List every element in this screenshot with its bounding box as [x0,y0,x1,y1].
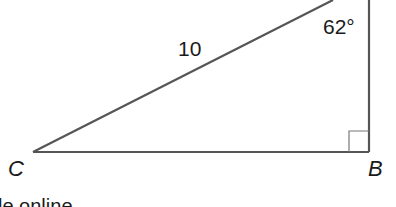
angle-label: 62° [323,16,355,37]
vertex-b-label: B [368,158,383,180]
right-angle-marker [349,131,369,152]
hypotenuse-length-label: 10 [178,38,201,59]
vertex-c-label: C [8,158,24,180]
caption-text: le online [0,196,73,207]
hypotenuse [33,0,333,152]
